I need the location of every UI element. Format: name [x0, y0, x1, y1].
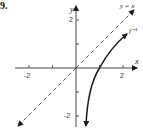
y-tick-neg2: -2: [64, 112, 70, 119]
x-axis-label: x: [135, 58, 139, 66]
inverse-function-curve-lower: [86, 68, 100, 126]
y-axis-label: y: [70, 6, 74, 14]
x-tick-2: 2: [120, 72, 124, 79]
x-tick-neg2: -2: [24, 72, 30, 79]
inverse-function-label: f⁻¹: [129, 28, 137, 35]
identity-line-label: y = x: [120, 3, 134, 10]
y-tick-2: 2: [69, 16, 73, 23]
inverse-function-curve: [100, 34, 128, 68]
